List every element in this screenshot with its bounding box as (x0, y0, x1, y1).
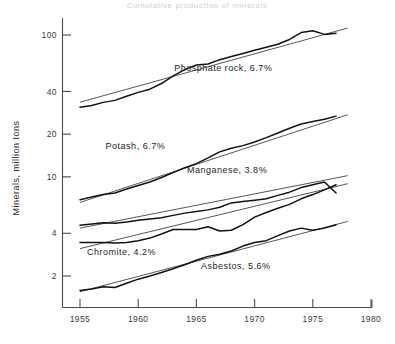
y-tick-label: 20 (47, 129, 57, 139)
series-label-potash: Potash, 6.7% (106, 141, 166, 151)
y-tick-label: 2 (52, 271, 57, 281)
x-tick-label: 1960 (128, 314, 149, 324)
x-tick-label: 1955 (70, 314, 91, 324)
x-tick-label: 1965 (186, 314, 207, 324)
y-axis-title: Minerals, million tons (11, 120, 21, 215)
series-label-manganese: Manganese, 3.8% (187, 165, 267, 175)
series-label-asbestos: Asbestos, 5.6% (201, 261, 271, 271)
y-tick-label: 100 (42, 30, 57, 40)
y-tick-label: 10 (47, 172, 57, 182)
minerals-production-chart: Cumulative production of minerals 241020… (0, 0, 395, 344)
y-tick-label: 4 (52, 228, 57, 238)
y-tick-label: 40 (47, 87, 57, 97)
x-tick-label: 1980 (361, 314, 382, 324)
series-label-chromite: Chromite, 4.2% (87, 247, 156, 257)
series-label-phosphate-rock: Phosphate rock, 6.7% (174, 63, 272, 73)
chart-title: Cumulative production of minerals (127, 1, 268, 10)
x-tick-label: 1970 (244, 314, 265, 324)
x-tick-label: 1975 (303, 314, 324, 324)
